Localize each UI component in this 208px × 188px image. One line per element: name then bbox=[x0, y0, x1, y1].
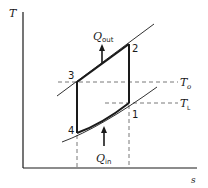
q-in-subscript: in bbox=[105, 158, 111, 166]
point-label-1: 1 bbox=[132, 109, 138, 120]
q-out-arrowhead-icon bbox=[99, 44, 105, 51]
ts-diagram: T s Q out Q in 2 3 4 1 T o T L bbox=[0, 0, 208, 188]
t-low-subscript: L bbox=[187, 104, 191, 111]
point-label-2: 2 bbox=[132, 43, 138, 54]
q-out-label: Q bbox=[93, 30, 102, 43]
q-out-subscript: out bbox=[102, 36, 114, 44]
q-in-label: Q bbox=[96, 152, 105, 165]
point-label-3: 3 bbox=[68, 70, 74, 81]
q-in-arrowhead-icon bbox=[101, 126, 107, 133]
t-high-subscript: o bbox=[187, 83, 191, 91]
y-axis-label: T bbox=[9, 7, 18, 20]
x-axis-label: s bbox=[191, 175, 196, 185]
point-label-4: 4 bbox=[68, 125, 74, 136]
